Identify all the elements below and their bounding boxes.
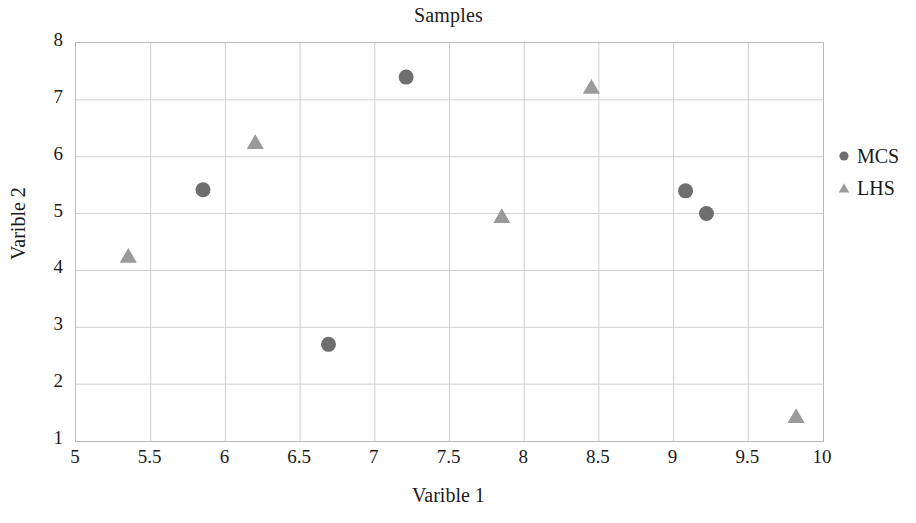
legend-label-mcs: MCS (857, 146, 899, 166)
x-axis-title: Varible 1 (75, 484, 822, 507)
triangle-marker-icon (836, 180, 852, 196)
chart-title: Samples (75, 4, 822, 27)
x-tick-label: 9 (643, 446, 703, 468)
legend-label-lhs: LHS (857, 178, 895, 198)
y-tick-label: 7 (23, 86, 63, 108)
data-point-circle (678, 183, 693, 198)
data-point-triangle (583, 79, 600, 94)
x-tick-label: 6.5 (269, 446, 329, 468)
scatter-chart: Samples 55.566.577.588.599.510 12345678 … (0, 0, 916, 523)
legend-item-mcs: MCS (836, 140, 916, 172)
legend-item-lhs: LHS (836, 172, 916, 204)
data-point-triangle (120, 248, 137, 263)
data-point-circle (195, 182, 210, 197)
data-point-circle (321, 337, 336, 352)
x-tick-label: 7.5 (419, 446, 479, 468)
circle-marker-icon (836, 148, 852, 164)
y-tick-label: 2 (23, 370, 63, 392)
x-tick-label: 8.5 (568, 446, 628, 468)
data-points-layer (76, 43, 823, 441)
y-tick-label: 8 (23, 29, 63, 51)
y-axis-title: Varible 2 (7, 144, 30, 304)
y-tick-label: 1 (23, 427, 63, 449)
plot-area (75, 42, 824, 442)
data-point-triangle (247, 134, 264, 149)
data-point-triangle (788, 408, 805, 423)
data-point-circle (699, 206, 714, 221)
x-tick-label: 5 (45, 446, 105, 468)
x-tick-label: 6 (194, 446, 254, 468)
data-point-triangle (493, 208, 510, 223)
y-tick-label: 3 (23, 313, 63, 335)
x-tick-label: 10 (792, 446, 852, 468)
x-tick-label: 7 (344, 446, 404, 468)
x-tick-label: 5.5 (120, 446, 180, 468)
x-tick-label: 9.5 (717, 446, 777, 468)
x-tick-label: 8 (493, 446, 553, 468)
data-point-circle (399, 70, 414, 85)
legend: MCS LHS (836, 140, 916, 204)
